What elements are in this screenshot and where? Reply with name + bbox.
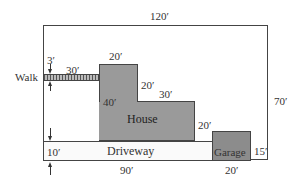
- driveway-label: Driveway: [107, 145, 154, 157]
- lot-width-label: 120′: [150, 10, 169, 22]
- house-right-depth-label: 20′: [198, 119, 211, 131]
- house-step-horizontal-label: 30′: [159, 88, 172, 100]
- house-top-width-label: 20′: [109, 50, 122, 62]
- driveway-length-label: 90′: [120, 164, 133, 176]
- house-left-depth-label: 40′: [103, 96, 116, 108]
- driveway-width-arrow-down-icon: [48, 128, 52, 141]
- house-label: House: [127, 113, 158, 125]
- driveway-width-label: 10′: [47, 146, 60, 158]
- garage-height-label: 15′: [254, 145, 267, 157]
- lot-height-label: 70′: [274, 95, 287, 107]
- walk-length-label: 30′: [66, 64, 79, 76]
- walk-label: Walk: [15, 71, 38, 83]
- garage-label: Garage: [214, 146, 246, 158]
- driveway-width-arrow-up-icon: [48, 162, 52, 175]
- walk-width-arrow-down-icon: [48, 64, 52, 74]
- walk-width-arrow-up-icon: [48, 81, 52, 91]
- house-step-vertical-label: 20′: [141, 79, 154, 91]
- garage-width-label: 20′: [225, 164, 238, 176]
